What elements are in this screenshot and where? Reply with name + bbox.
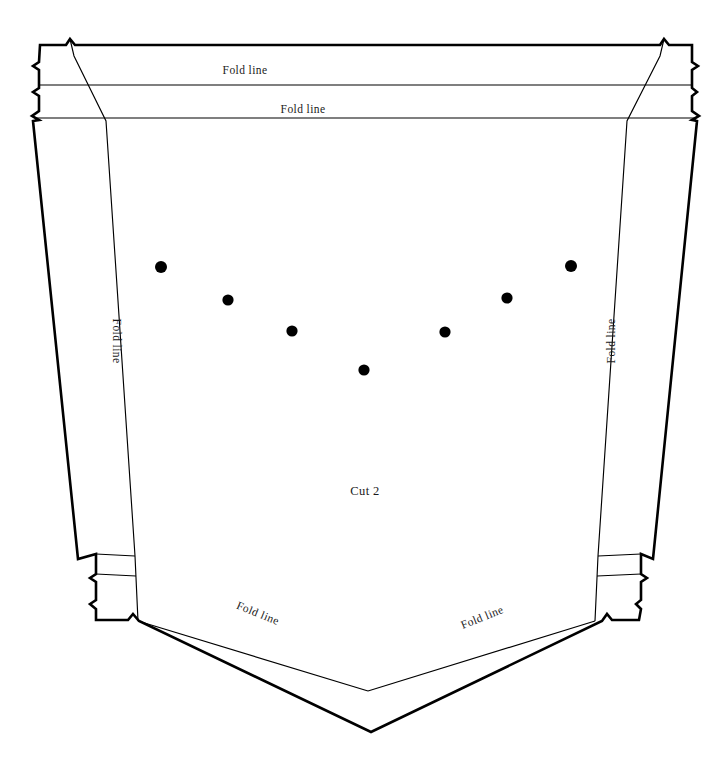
fold-line-label-right-side: Fold line [605,319,617,364]
pattern-canvas [0,0,728,768]
marking-dot [155,261,167,273]
marking-dot [286,325,297,336]
fold-line-bottom-left-path [138,621,368,691]
marking-dot [501,292,512,303]
fold-line-bottom-right-path [368,621,595,691]
fold-line-label-top-inner: Fold line [281,103,326,115]
marking-dot [222,294,233,305]
fold-line-right-tab-bottom-path [597,574,641,576]
cut-outline-group [32,39,699,732]
fold-line-right-tab-top-path [598,554,641,556]
fold-line-left-side-path [70,39,138,621]
cut-outline-path [32,39,699,732]
marking-dots-group [155,260,577,376]
marking-dot [439,326,450,337]
marking-dot [565,260,577,272]
piece-cut-quantity-label: Cut 2 [350,484,379,499]
fold-line-label-top-outer: Fold line [223,64,268,76]
fold-line-left-tab-bottom-path [96,574,136,576]
pattern-diagram: Fold line Fold line Fold line Fold line … [0,0,728,768]
fold-line-label-left-side: Fold line [111,319,123,364]
fold-line-left-tab-top-path [96,554,135,556]
marking-dot [358,364,369,375]
